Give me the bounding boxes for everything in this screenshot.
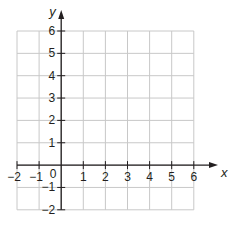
coordinate-grid: −2−1123456654321−1−2 x y 0 <box>0 0 232 228</box>
y-axis-label: y <box>48 4 57 19</box>
y-tick-label: 4 <box>49 69 56 83</box>
x-tick-label: 2 <box>102 170 109 184</box>
y-axis-arrow-icon <box>58 10 64 19</box>
x-tick-label: 6 <box>190 170 197 184</box>
x-tick-label: −2 <box>7 170 21 184</box>
x-tick-label: 4 <box>146 170 153 184</box>
y-tick-label: 1 <box>49 136 56 150</box>
y-tick-label: 3 <box>49 91 56 105</box>
y-tick-label: 6 <box>49 24 56 38</box>
x-tick-label: 5 <box>168 170 175 184</box>
x-axis-label: x <box>220 165 228 180</box>
x-tick-label: 1 <box>80 170 87 184</box>
y-tick-label: −2 <box>42 203 56 217</box>
y-tick-label: −1 <box>42 180 56 194</box>
origin-label: 0 <box>50 167 57 181</box>
y-tick-label: 5 <box>49 46 56 60</box>
y-tick-label: 2 <box>49 113 56 127</box>
x-axis-arrow-icon <box>209 162 218 168</box>
x-tick-label: 3 <box>124 170 131 184</box>
